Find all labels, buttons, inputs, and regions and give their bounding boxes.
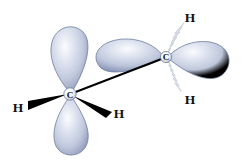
atom-label-hydrogen-bottom-right: H: [114, 106, 125, 121]
atom-label-hydrogen-lower-right: H: [185, 92, 196, 107]
orbital-diagram: C C H H H H: [0, 0, 246, 165]
orbital-lobe-right-carbon-right: [168, 42, 229, 79]
atom-label-carbon-right: C: [163, 52, 170, 62]
atom-label-hydrogen-top-right: H: [185, 10, 196, 25]
atom-label-carbon-left: C: [67, 90, 74, 100]
orbital-lobe-right-carbon-left: [96, 39, 164, 72]
orbital-diagram-canvas: C C H H H H: [0, 0, 246, 165]
atom-label-hydrogen-left: H: [13, 100, 24, 115]
orbital-lobe-left-carbon-up: [51, 27, 88, 93]
orbital-lobe-left-carbon-down: [54, 96, 88, 155]
